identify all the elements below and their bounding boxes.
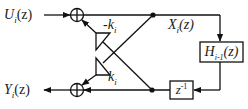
lower-gain-label: ki xyxy=(108,70,117,87)
top-junction-node xyxy=(150,12,155,17)
output-label: Yi(z) xyxy=(4,83,30,100)
delay-block-label: z-1 xyxy=(170,83,193,96)
state-label: Xi(z) xyxy=(168,18,194,35)
bottom-junction-node xyxy=(149,87,154,92)
upper-gain-label: -ki xyxy=(103,18,116,35)
input-label: Ui(z) xyxy=(4,8,32,25)
lattice-diagram: Ui(z) Yi(z) Xi(z) -ki ki Hi-1(z) z-1 xyxy=(0,0,248,109)
filter-block-label: Hi-1(z) xyxy=(200,45,243,62)
